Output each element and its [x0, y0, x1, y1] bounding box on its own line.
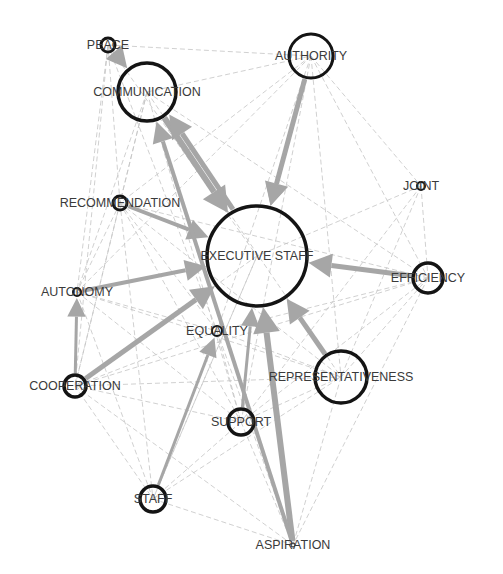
edge-authority-efficiency [311, 56, 428, 278]
edge-efficiency-aspiration [293, 278, 428, 545]
node-label-recommendation: RECOMMENDATION [60, 196, 181, 210]
node-label-joint: JOINT [403, 179, 439, 193]
arrow-aspiration-to-executive_staff [267, 333, 293, 541]
network-diagram: PEACECOMMUNICATIONAUTHORITYJOINTRECOMMEN… [0, 0, 503, 574]
edge-peace-recommendation [108, 45, 120, 203]
edge-recommendation-autonomy [77, 203, 120, 292]
node-label-peace: PEACE [87, 38, 129, 52]
arrow-cooperation-to-autonomy [75, 317, 76, 373]
node-label-autonomy: AUTONOMY [41, 285, 114, 299]
node-label-support: SUPPORT [211, 415, 272, 429]
edge-communication-autonomy [77, 92, 147, 292]
node-label-authority: AUTHORITY [275, 49, 348, 63]
node-label-aspiration: ASPIRATION [256, 538, 331, 552]
edge-authority-joint [311, 56, 421, 186]
edge-cooperation-staff [75, 386, 153, 499]
arrowhead-icon [169, 114, 192, 140]
edge-cooperation-aspiration [75, 386, 293, 545]
node-label-representativeness: REPRESENTATIVENESS [269, 370, 414, 384]
edge-authority-representativeness [311, 56, 341, 377]
node-label-staff: STAFF [134, 492, 173, 506]
arrow-cooperation-to-executive_staff [86, 300, 196, 379]
arrowhead-icon [287, 299, 310, 325]
node-label-equality: EQUALITY [186, 324, 248, 338]
edge-peace-autonomy [77, 45, 108, 292]
arrow-representativeness-to-executive_staff [300, 318, 325, 354]
edge-staff-representativeness [153, 377, 341, 499]
node-label-efficiency: EFFICIENCY [391, 271, 466, 285]
node-label-cooperation: COOPERATION [29, 379, 120, 393]
node-label-executive_staff: EXECUTIVE STAFF [201, 249, 314, 263]
arrow-authority-to-executive_staff [275, 79, 304, 188]
node-label-communication: COMMUNICATION [93, 85, 200, 99]
arrow-staff-to-equality [158, 355, 208, 485]
